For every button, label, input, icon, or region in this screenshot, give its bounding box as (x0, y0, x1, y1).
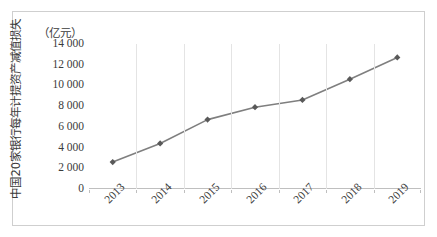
x-tick-mark (420, 190, 421, 193)
y-tick-label: 4 000 (28, 142, 84, 154)
x-tick-mark (184, 190, 185, 193)
y-tick-label: 6 000 (28, 121, 84, 133)
gridline (279, 44, 280, 189)
y-tick-label: 14 000 (28, 38, 84, 50)
y-axis-tick-labels: 14 00012 00010 0008 0006 0004 0002 0000 (26, 44, 84, 189)
x-tick-mark (136, 190, 137, 193)
x-tick-mark (89, 190, 90, 193)
y-tick-label: 12 000 (28, 59, 84, 71)
x-tick-mark (374, 190, 375, 193)
gridline (231, 44, 232, 189)
data-point-marker (394, 54, 400, 60)
gridline (136, 44, 137, 189)
x-axis-tick-labels: 2013201420152016201720182019 (89, 190, 421, 235)
x-tick-mark (279, 190, 280, 193)
data-point-marker (252, 104, 258, 110)
data-point-marker (299, 97, 305, 103)
y-tick-label: 0 (28, 183, 84, 195)
gridline (184, 44, 185, 189)
plot-area (89, 44, 421, 189)
y-tick-label: 2 000 (28, 162, 84, 174)
chart-figure: 中国20家银行每年计提资产减值损失 （亿元） 14 00012 00010 00… (0, 0, 437, 237)
data-point-marker (157, 140, 163, 146)
data-point-marker (204, 117, 210, 123)
x-tick-mark (231, 190, 232, 193)
data-point-marker (110, 159, 116, 165)
y-tick-label: 10 000 (28, 79, 84, 91)
line-series (89, 44, 421, 189)
data-point-marker (347, 76, 353, 82)
y-tick-label: 8 000 (28, 100, 84, 112)
y-axis-title: 中国20家银行每年计提资产减值损失 (11, 14, 23, 204)
gridline (374, 44, 375, 189)
gridline (326, 44, 327, 189)
x-tick-mark (326, 190, 327, 193)
